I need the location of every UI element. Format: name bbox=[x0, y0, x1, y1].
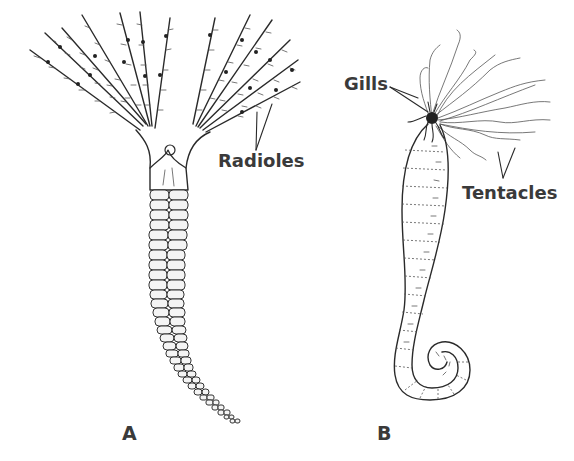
radioles-label: Radioles bbox=[218, 152, 305, 170]
gills-pointer bbox=[390, 87, 428, 112]
panel-a-label: A bbox=[122, 424, 137, 443]
parapodia bbox=[404, 146, 450, 375]
radiole-eyespots bbox=[46, 33, 294, 114]
tentacles-label: Tentacles bbox=[462, 184, 557, 202]
crown-base bbox=[136, 130, 210, 190]
radioles-left bbox=[30, 12, 170, 130]
panel-b-illustration bbox=[390, 30, 550, 400]
panel-a-illustration bbox=[30, 12, 300, 423]
radioles-pointer bbox=[256, 104, 272, 150]
panel-b-label: B bbox=[377, 424, 391, 443]
tentacles-pointer bbox=[498, 148, 515, 178]
figure-canvas bbox=[0, 0, 574, 461]
radioles-right bbox=[193, 15, 300, 132]
worm-body bbox=[394, 124, 470, 400]
radiole-pinnules bbox=[34, 24, 297, 117]
gills-label: Gills bbox=[344, 75, 388, 93]
segmented-body bbox=[149, 190, 240, 423]
tentacles bbox=[420, 30, 550, 160]
